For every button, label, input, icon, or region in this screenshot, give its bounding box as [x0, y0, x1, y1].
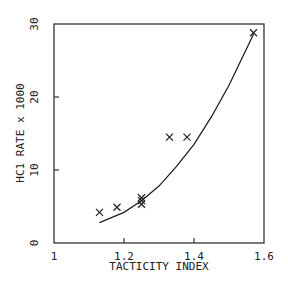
y-tick-label: 10: [28, 163, 41, 176]
y-tick-label: 20: [28, 90, 41, 103]
x-marker: [184, 134, 191, 141]
x-marker: [138, 201, 145, 208]
x-axis-label: TACTICITY INDEX: [109, 260, 209, 273]
y-axis-label: HC1 RATE x 1000: [14, 83, 27, 182]
x-marker: [114, 204, 121, 211]
chart: 11.21.41.6 0102030 TACTICITY INDEX HC1 R…: [0, 0, 288, 287]
y-tick-label: 0: [28, 240, 41, 247]
x-marker: [96, 209, 103, 216]
x-tick-label: 1: [51, 250, 58, 263]
x-tick-label: 1.6: [254, 250, 274, 263]
x-marker: [166, 134, 173, 141]
plot-frame: [54, 24, 264, 243]
fit-curve: [100, 34, 254, 222]
y-tick-label: 30: [28, 17, 41, 30]
data-points: [96, 29, 257, 216]
